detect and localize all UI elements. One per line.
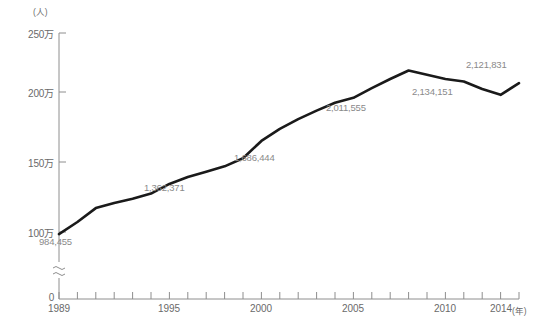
x-tick-label-2010: 2010 [434,303,456,314]
x-tick-label-2000: 2000 [250,303,272,314]
x-tick-label-2005: 2005 [342,303,364,314]
y-axis-ticks [59,33,66,232]
line-chart: (人) 250万 200万 150万 100万 0 1989 1995 2000… [0,0,540,330]
axis-break-icon [53,267,65,276]
data-label-2011: 2,134,151 [412,86,452,97]
x-axis-unit-label: (年) [512,304,526,316]
x-axis-ticks [59,292,519,299]
x-tick-label-1995: 1995 [158,303,180,314]
data-label-1995: 1,362,371 [144,182,184,193]
y-tick-label-250man: 250万 [8,26,54,41]
data-label-1989: 984,455 [39,236,72,247]
y-axis-unit-label: (人) [33,5,48,17]
y-tick-label-150man: 150万 [8,155,54,170]
data-label-2000: 1,686,444 [234,152,274,163]
data-label-2014: 2,121,831 [466,59,506,70]
chart-canvas [0,0,540,330]
x-tick-label-1989: 1989 [48,303,70,314]
x-tick-label-2014: 2014 [490,303,512,314]
y-tick-label-zero: 0 [8,292,54,303]
data-label-2005: 2,011,555 [326,102,366,113]
y-tick-label-200man: 200万 [8,85,54,100]
